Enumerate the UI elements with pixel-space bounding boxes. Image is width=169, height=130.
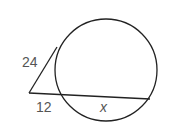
external-secant-label: 12 — [36, 99, 52, 115]
internal-secant-label: x — [99, 99, 108, 115]
tangent-length-label: 24 — [22, 54, 38, 70]
geometry-diagram: 24 12 x — [0, 0, 169, 130]
